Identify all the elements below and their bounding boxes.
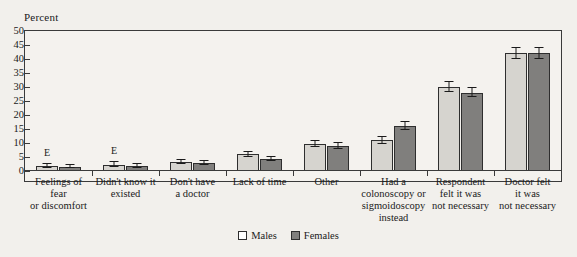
x-axis-label-line: not necessary — [486, 200, 569, 212]
bar-rect — [327, 146, 349, 171]
error-bar-cap-bottom — [177, 163, 186, 164]
error-bar-cap-bottom — [133, 167, 142, 168]
bar-males — [237, 31, 259, 171]
error-bar-cap-bottom — [267, 160, 276, 161]
error-bar-cap-bottom — [401, 129, 410, 130]
error-bar-cap-top — [468, 87, 477, 88]
x-axis-label-line: a doctor — [151, 188, 234, 200]
error-bar-cap-bottom — [66, 167, 75, 168]
error-bar-cap-bottom — [244, 156, 253, 157]
bar-females — [59, 31, 81, 171]
error-bar-cap-bottom — [468, 96, 477, 97]
bar-males — [505, 31, 527, 171]
bar-males — [438, 31, 460, 171]
x-axis-label-line: or discomfort — [17, 200, 100, 212]
bar-males — [304, 31, 326, 171]
y-axis-title: Percent — [24, 11, 58, 23]
bar-males — [170, 31, 192, 171]
plot-area: EE — [25, 31, 561, 171]
legend-item-male: Males — [238, 230, 277, 241]
bar-chart: Percent 05101520253035404550 EE Feelings… — [0, 0, 577, 257]
bar-group — [494, 31, 561, 171]
error-bar-cap-bottom — [334, 148, 343, 149]
bar-rect — [438, 87, 460, 171]
error-bar-cap-bottom — [378, 143, 387, 144]
bar-group: E — [25, 31, 92, 171]
bar-females — [260, 31, 282, 171]
bar-group — [226, 31, 293, 171]
x-axis-label-line: Doctor felt — [486, 176, 569, 188]
bar-females — [327, 31, 349, 171]
error-bar-cap-top — [133, 163, 142, 164]
bar-males — [371, 31, 393, 171]
error-bar-cap-top — [401, 121, 410, 122]
bar-group — [293, 31, 360, 171]
bar-rect — [505, 53, 527, 171]
bar-males: E — [103, 31, 125, 171]
y-axis-tick-mark — [25, 171, 30, 172]
error-bar-cap-top — [66, 164, 75, 165]
error-bar-cap-top — [177, 159, 186, 160]
error-bar-cap-bottom — [512, 58, 521, 59]
bar-rect — [304, 144, 326, 171]
error-bar-cap-top — [43, 163, 52, 164]
quality-flag-e: E — [111, 146, 117, 156]
bar-rect — [528, 53, 550, 171]
legend-label: Females — [304, 230, 339, 241]
bar-females — [126, 31, 148, 171]
bar-females — [461, 31, 483, 171]
bar-males: E — [36, 31, 58, 171]
error-bar-cap-bottom — [311, 146, 320, 147]
error-bar-cap-bottom — [535, 58, 544, 59]
error-bar-cap-top — [200, 160, 209, 161]
bar-females — [193, 31, 215, 171]
error-bar-cap-top — [244, 151, 253, 152]
error-bar-cap-bottom — [43, 167, 52, 168]
error-bar-cap-top — [267, 156, 276, 157]
bar-group — [427, 31, 494, 171]
error-bar-cap-top — [512, 47, 521, 48]
legend-label: Males — [251, 230, 277, 241]
bar-group — [159, 31, 226, 171]
error-bar-cap-top — [378, 136, 387, 137]
error-bar-cap-bottom — [445, 91, 454, 92]
bar-females — [394, 31, 416, 171]
x-axis-label: Doctor feltit wasnot necessary — [486, 176, 569, 212]
error-bar-cap-top — [535, 47, 544, 48]
legend-swatch-female — [291, 231, 300, 240]
bar-rect — [394, 126, 416, 171]
bar-group — [360, 31, 427, 171]
error-bar-cap-top — [334, 142, 343, 143]
bar-rect — [461, 93, 483, 171]
error-bar-cap-bottom — [110, 166, 119, 167]
bar-rect — [371, 140, 393, 171]
error-bar-cap-top — [445, 81, 454, 82]
x-axis-label-line: instead — [352, 212, 435, 224]
error-bar-cap-top — [110, 161, 119, 162]
chart-legend: MalesFemales — [0, 230, 577, 241]
error-bar-cap-bottom — [200, 164, 209, 165]
x-axis-label-line: it was — [486, 188, 569, 200]
legend-item-female: Females — [291, 230, 339, 241]
bar-females — [528, 31, 550, 171]
legend-swatch-male — [238, 231, 247, 240]
quality-flag-e: E — [44, 148, 50, 158]
bar-group: E — [92, 31, 159, 171]
error-bar-cap-top — [311, 140, 320, 141]
